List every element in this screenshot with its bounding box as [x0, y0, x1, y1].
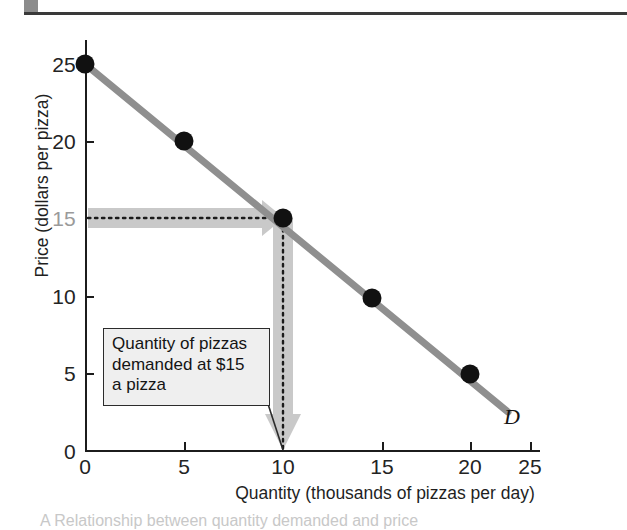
data-point-20-5: [461, 365, 480, 384]
data-point-5-20: [175, 132, 194, 151]
callout-box: Quantity of pizzas demanded at $15 a piz…: [103, 328, 270, 406]
callout-line-3: a pizza: [112, 375, 262, 396]
callout-line-1: Quantity of pizzas: [112, 334, 262, 355]
callout-line-2: demanded at $15: [112, 355, 262, 376]
demand-curve-label: D: [504, 404, 520, 430]
data-point-10-15: [274, 209, 293, 228]
figure-caption: A Relationship between quantity demanded…: [40, 512, 418, 530]
vertical-guide-arrow: [265, 218, 301, 450]
data-point-15-10: [363, 289, 382, 308]
data-point-0-25: [76, 55, 95, 74]
